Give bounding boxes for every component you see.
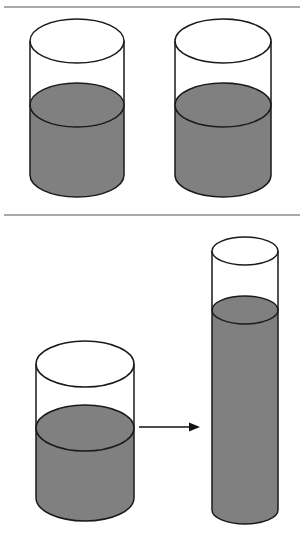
figure-canvas xyxy=(0,0,303,537)
beaker-wide-bottom-liquid-surface xyxy=(36,405,134,451)
cylinder-tall-bottom-liquid-body xyxy=(212,310,278,524)
conservation-figure xyxy=(0,0,303,537)
beaker-right-top-liquid-surface xyxy=(175,83,271,127)
cylinder-tall-bottom-liquid-surface xyxy=(212,296,278,324)
beaker-left-top-liquid-surface xyxy=(30,83,124,127)
cylinder-tall-bottom xyxy=(212,237,278,524)
